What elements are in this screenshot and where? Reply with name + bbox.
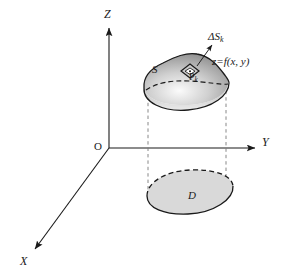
axis-label-origin: O: [94, 141, 102, 152]
patch-label-delta-sk: ΔSk: [208, 31, 223, 44]
axis-label-x: X: [20, 255, 27, 267]
point-label-pk: Pk: [189, 72, 198, 84]
surface-label-s: S: [152, 64, 158, 75]
patch-label-delta-s-subscript: k: [220, 35, 224, 44]
patch-label-delta-s: ΔS: [208, 30, 220, 42]
surface-equation-label: z=f(x, y): [212, 56, 249, 67]
diagram-canvas: [0, 0, 289, 279]
region-label-d: D: [188, 190, 196, 201]
point-label-p-subscript: k: [195, 76, 198, 84]
axis-label-z: Z: [104, 8, 111, 20]
axis-x: [35, 148, 109, 249]
axis-label-y: Y: [262, 136, 269, 148]
math-diagram-3d-surface: Z Y X O S z=f(x, y) ΔSk Pk D: [0, 0, 289, 279]
